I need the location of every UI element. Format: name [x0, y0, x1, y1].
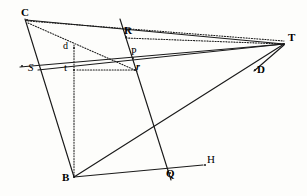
- point-label-H: H: [207, 154, 215, 165]
- solid-line-group: [20, 19, 284, 180]
- point-label-S: S: [28, 62, 34, 73]
- point-label-t: t: [64, 62, 67, 73]
- vertex-dot-T: [283, 43, 285, 45]
- point-label-P: P: [131, 47, 137, 57]
- vertex-dot-R: [125, 36, 127, 38]
- segment-S-T: [20, 44, 284, 67]
- vertex-dot-C: [26, 19, 28, 21]
- point-label-d: d: [63, 41, 68, 51]
- vertex-dot-d: [73, 47, 75, 49]
- vertex-dot-t: [73, 69, 75, 71]
- dotted-C-r: [28, 23, 137, 71]
- geometry-figure: CRTPDdStrBQH: [0, 0, 307, 196]
- point-label-D: D: [257, 64, 265, 75]
- segment-R-Q: [120, 19, 171, 180]
- point-label-r: r: [136, 62, 140, 72]
- point-label-R: R: [124, 25, 132, 36]
- vertex-dot-B: [73, 176, 75, 178]
- vertex-dot-D: [254, 69, 256, 71]
- point-label-T: T: [288, 32, 295, 43]
- figure-canvas: [0, 0, 307, 196]
- vertex-dot-P: [132, 57, 134, 59]
- dotted-C-T: [28, 21, 284, 41]
- point-label-C: C: [21, 7, 29, 18]
- vertex-dot-S: [21, 65, 23, 67]
- segment-B-T: [74, 44, 284, 177]
- segment-B-H: [74, 165, 203, 177]
- point-label-Q: Q: [166, 168, 175, 179]
- vertex-dot-H: [204, 164, 206, 166]
- point-label-B: B: [62, 172, 69, 183]
